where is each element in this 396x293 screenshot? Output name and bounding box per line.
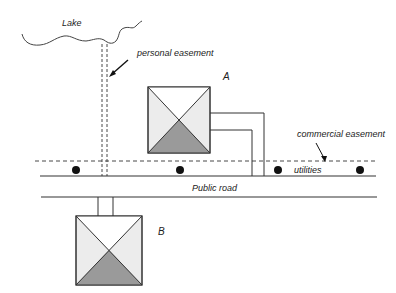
lake-shoreline [22, 21, 142, 45]
driveway-a-inner [210, 130, 252, 176]
personal-easement-label: personal easement [136, 48, 214, 58]
utilities-label: utilities [294, 165, 322, 175]
utility-pole-4 [356, 166, 364, 174]
commercial-easement-label: commercial easement [297, 129, 386, 139]
driveway-a-outer [210, 113, 264, 176]
house-b [76, 216, 142, 285]
commercial-easement-arrow [316, 143, 324, 158]
utility-pole-3 [274, 166, 282, 174]
house-b-label: B [158, 226, 165, 237]
easement-diagram: Lake personal easement A commercial ease… [0, 0, 396, 293]
public-road-label: Public road [192, 183, 238, 193]
house-a-label: A [222, 71, 230, 82]
utility-pole-2 [176, 166, 184, 174]
lake-label: Lake [62, 18, 82, 28]
house-a [148, 87, 210, 153]
utility-pole-1 [72, 166, 80, 174]
